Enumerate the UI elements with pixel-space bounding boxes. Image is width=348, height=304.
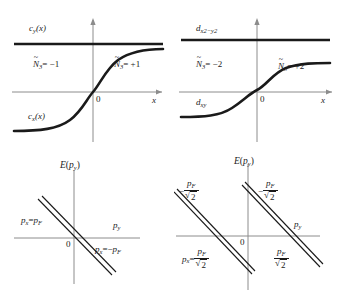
figure-canvas: cy(x) cx(x) N3= −1 N3= +1 0 x dx2−y2 [0,0,348,304]
x-axis-label: x [321,96,325,105]
branch-label-px-equals-minus-pf: px=−pF [95,245,121,255]
region-label-n3-left: N3= −2 [196,60,222,70]
y-axis-label: E(py) [60,161,80,171]
panel-top-left-plot [0,0,174,152]
panel-top-left: cy(x) cx(x) N3= −1 N3= +1 0 x [0,0,174,152]
panel-bottom-right: E(py) py 0 −pF2 −pF2 px=pF2 pF2 [174,152,348,304]
x-axis-label: py [294,220,301,230]
region-label-n3-right: N3= +2 [278,62,304,72]
panel-top-right: dx2−y2 dxy N3= −2 N3= +2 0 x [174,0,348,152]
curve-label-d-xy: dxy [196,98,206,108]
panel-bottom-left: E(py) py 0 px=pF px=−pF [0,152,174,304]
y-axis-label: E(py) [234,157,254,167]
x-axis-label: x [152,96,156,105]
label-minus-pf-over-sqrt2-right: −pF2 [258,180,278,203]
panel-bottom-right-plot [174,152,348,304]
region-label-n3-right: N3= +1 [114,60,140,70]
x-axis-arrowhead [326,89,332,94]
x-axis-label: py [113,221,120,231]
origin-label: 0 [260,95,265,104]
curve-label-c-y: cy(x) [29,24,46,34]
label-minus-pf-over-sqrt2-left: −pF2 [179,180,199,203]
y-axis-arrowhead [90,18,95,25]
y-axis-arrowhead [254,18,259,25]
label-pf-over-sqrt2: pF2 [274,248,289,271]
origin-label: 0 [66,240,71,249]
region-label-n3-left: N3= −1 [33,60,59,70]
branch-label-px-equals-pf: px=pF [21,216,42,226]
origin-label: 0 [240,238,245,247]
curve-label-c-x: cx(x) [28,112,45,122]
x-axis-arrowhead [156,89,162,94]
curve-d-xy [181,63,330,117]
dispersion-branch-edge-lower [42,196,116,272]
panel-bottom-left-plot [0,152,174,304]
origin-label: 0 [96,95,101,104]
dispersion-branch [38,196,116,275]
curve-label-d-x2-y2: dx2−y2 [196,24,217,34]
label-px-equals-pf-over-sqrt2: px=pF2 [182,248,209,271]
dispersion-branch-edge-upper [38,199,112,275]
